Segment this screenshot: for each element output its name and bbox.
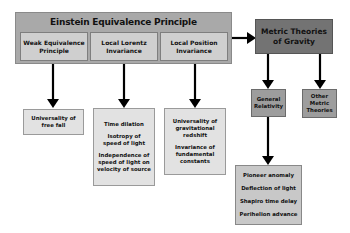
consequence-item: Time dilation (104, 121, 144, 128)
other-metric-theories-box: Other Metric Theories (302, 89, 337, 118)
local-lorentz-label: Local Lorentz Invariance (91, 39, 157, 55)
local-position-box: Local Position Invariance (160, 32, 228, 61)
consequence-item: Isotropy of speed of light (95, 133, 153, 147)
metric-theories-label: Metric Theories of Gravity (260, 27, 328, 47)
test-item: Perihelion advance (239, 211, 297, 218)
test-item: Shapiro time delay (240, 198, 297, 205)
free-fall-box: Universality of free fall (23, 109, 84, 135)
local-position-label: Local Position Invariance (161, 39, 227, 55)
gr-tests-box: Pioneer anomaly Deflection of light Shap… (235, 165, 302, 225)
weak-equivalence-box: Weak Equivalence Principle (20, 32, 88, 61)
general-relativity-box: General Relativity (251, 89, 286, 117)
test-item: Pioneer anomaly (243, 172, 294, 179)
position-consequences-box: Universality of gravitational redshift I… (164, 108, 226, 175)
consequence-item: Universality of gravitational redshift (168, 118, 222, 139)
general-relativity-label: General Relativity (252, 96, 285, 110)
lorentz-consequences-box: Time dilation Isotropy of speed of light… (93, 108, 155, 186)
consequence-item: Independence of speed of light on veloci… (95, 152, 153, 173)
consequence-item: Invariance of fundamental constants (168, 144, 222, 165)
test-item: Deflection of light (241, 185, 296, 192)
weak-equivalence-label: Weak Equivalence Principle (21, 39, 87, 55)
local-lorentz-box: Local Lorentz Invariance (90, 32, 158, 61)
principle-title: Einstein Equivalence Principle (50, 17, 197, 27)
other-metric-theories-label: Other Metric Theories (303, 93, 336, 114)
metric-theories-box: Metric Theories of Gravity (255, 19, 333, 54)
consequence-item: Universality of free fall (30, 115, 77, 129)
